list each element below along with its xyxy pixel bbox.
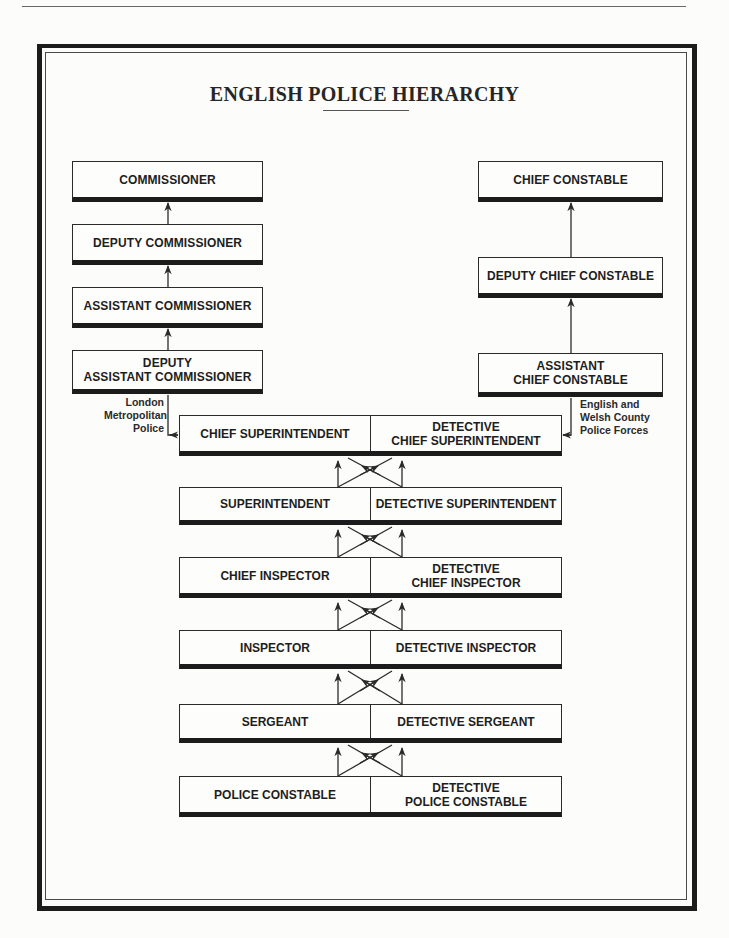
rank-label: ASSISTANT COMMISSIONER — [84, 299, 252, 313]
rank-label: COMMISSIONER — [119, 173, 216, 187]
uniformed-rank: CHIEF SUPERINTENDENT — [180, 416, 371, 451]
label-line: Metropolitan — [104, 409, 164, 422]
rank-deputy-assistant-commissioner: DEPUTY ASSISTANT COMMISSIONER — [72, 350, 263, 394]
diagram-title: ENGLISH POLICE HIERARCHY — [0, 83, 729, 106]
rank-deputy-commissioner: DEPUTY COMMISSIONER — [72, 224, 263, 265]
uniformed-rank: POLICE CONSTABLE — [180, 777, 371, 812]
uniformed-rank: INSPECTOR — [180, 631, 371, 664]
rank-label: DETECTIVE SUPERINTENDENT — [376, 497, 557, 511]
rank-label: SERGEANT — [242, 715, 309, 729]
detective-rank: DETECTIVE POLICE CONSTABLE — [371, 777, 561, 812]
rank-label-line: POLICE CONSTABLE — [405, 795, 527, 809]
rank-label-line: DEPUTY — [143, 356, 192, 370]
detective-rank: DETECTIVE SERGEANT — [371, 705, 561, 738]
rank-row-police-constable: POLICE CONSTABLE DETECTIVE POLICE CONSTA… — [179, 776, 562, 817]
uniformed-rank: CHIEF INSPECTOR — [180, 558, 371, 593]
uniformed-rank: SUPERINTENDENT — [180, 488, 371, 520]
rank-row-superintendent: SUPERINTENDENT DETECTIVE SUPERINTENDENT — [179, 487, 562, 525]
rank-label: SUPERINTENDENT — [220, 497, 330, 511]
rank-chief-constable: CHIEF CONSTABLE — [478, 161, 663, 202]
page-header-rule — [22, 6, 686, 7]
rank-label-line: DETECTIVE — [432, 781, 499, 795]
uniformed-rank: SERGEANT — [180, 705, 371, 738]
label-line: English and — [580, 398, 670, 411]
rank-row-inspector: INSPECTOR DETECTIVE INSPECTOR — [179, 630, 562, 669]
rank-label: DEPUTY COMMISSIONER — [93, 236, 242, 250]
label-line: Police — [104, 422, 164, 435]
rank-label: POLICE CONSTABLE — [214, 788, 336, 802]
london-metropolitan-police-label: London Metropolitan Police — [104, 396, 164, 435]
rank-label-line: CHIEF CONSTABLE — [513, 373, 628, 387]
detective-rank: DETECTIVE INSPECTOR — [371, 631, 561, 664]
rank-label-line: DETECTIVE — [432, 420, 499, 434]
detective-rank: DETECTIVE CHIEF INSPECTOR — [371, 558, 561, 593]
rank-label-line: CHIEF SUPERINTENDENT — [391, 434, 540, 448]
rank-label: DETECTIVE SERGEANT — [397, 715, 534, 729]
rank-assistant-chief-constable: ASSISTANT CHIEF CONSTABLE — [478, 353, 663, 397]
rank-row-chief-superintendent: CHIEF SUPERINTENDENT DETECTIVE CHIEF SUP… — [179, 415, 562, 456]
rank-label: CHIEF SUPERINTENDENT — [200, 427, 349, 441]
rank-row-sergeant: SERGEANT DETECTIVE SERGEANT — [179, 704, 562, 743]
rank-assistant-commissioner: ASSISTANT COMMISSIONER — [72, 287, 263, 328]
rank-label-line: CHIEF INSPECTOR — [411, 576, 520, 590]
rank-row-chief-inspector: CHIEF INSPECTOR DETECTIVE CHIEF INSPECTO… — [179, 557, 562, 598]
label-line: Police Forces — [580, 424, 670, 437]
rank-label-line: DETECTIVE — [432, 562, 499, 576]
rank-label: DEPUTY CHIEF CONSTABLE — [487, 269, 654, 283]
detective-rank: DETECTIVE SUPERINTENDENT — [371, 488, 561, 520]
rank-label-line: ASSISTANT — [536, 359, 604, 373]
label-line: Welsh County — [580, 411, 670, 424]
title-underline — [323, 110, 409, 111]
rank-label: CHIEF INSPECTOR — [220, 569, 329, 583]
rank-label-line: ASSISTANT COMMISSIONER — [84, 370, 252, 384]
rank-label: DETECTIVE INSPECTOR — [396, 641, 536, 655]
rank-label: INSPECTOR — [240, 641, 310, 655]
label-line: London — [104, 396, 164, 409]
rank-deputy-chief-constable: DEPUTY CHIEF CONSTABLE — [478, 257, 663, 298]
rank-label: CHIEF CONSTABLE — [513, 173, 628, 187]
county-police-forces-label: English and Welsh County Police Forces — [580, 398, 670, 437]
rank-commissioner: COMMISSIONER — [72, 161, 263, 202]
detective-rank: DETECTIVE CHIEF SUPERINTENDENT — [371, 416, 561, 451]
